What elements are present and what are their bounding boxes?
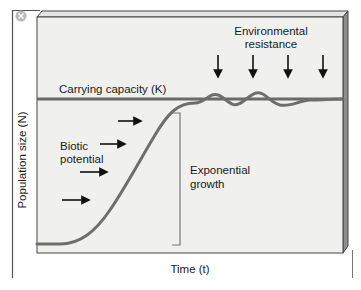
logistic-growth-figure: Environmental resistance Carrying capaci… <box>0 0 361 290</box>
plot-panel <box>37 17 343 253</box>
exponential-growth-label-2: growth <box>190 178 225 190</box>
x-axis-label: Time (t) <box>170 263 209 275</box>
close-circle-icon[interactable] <box>16 11 27 22</box>
biotic-potential-label-2: potential <box>60 153 103 165</box>
panel-top-bevel <box>37 11 348 17</box>
carrying-capacity-label: Carrying capacity (K) <box>59 83 167 95</box>
y-axis-label: Population size (N) <box>16 111 28 208</box>
panel-side <box>343 11 348 253</box>
biotic-potential-label-1: Biotic <box>60 140 88 152</box>
exponential-growth-label-1: Exponential <box>190 164 250 176</box>
environmental-resistance-label-2: resistance <box>245 38 297 50</box>
environmental-resistance-label-1: Environmental <box>234 25 308 37</box>
